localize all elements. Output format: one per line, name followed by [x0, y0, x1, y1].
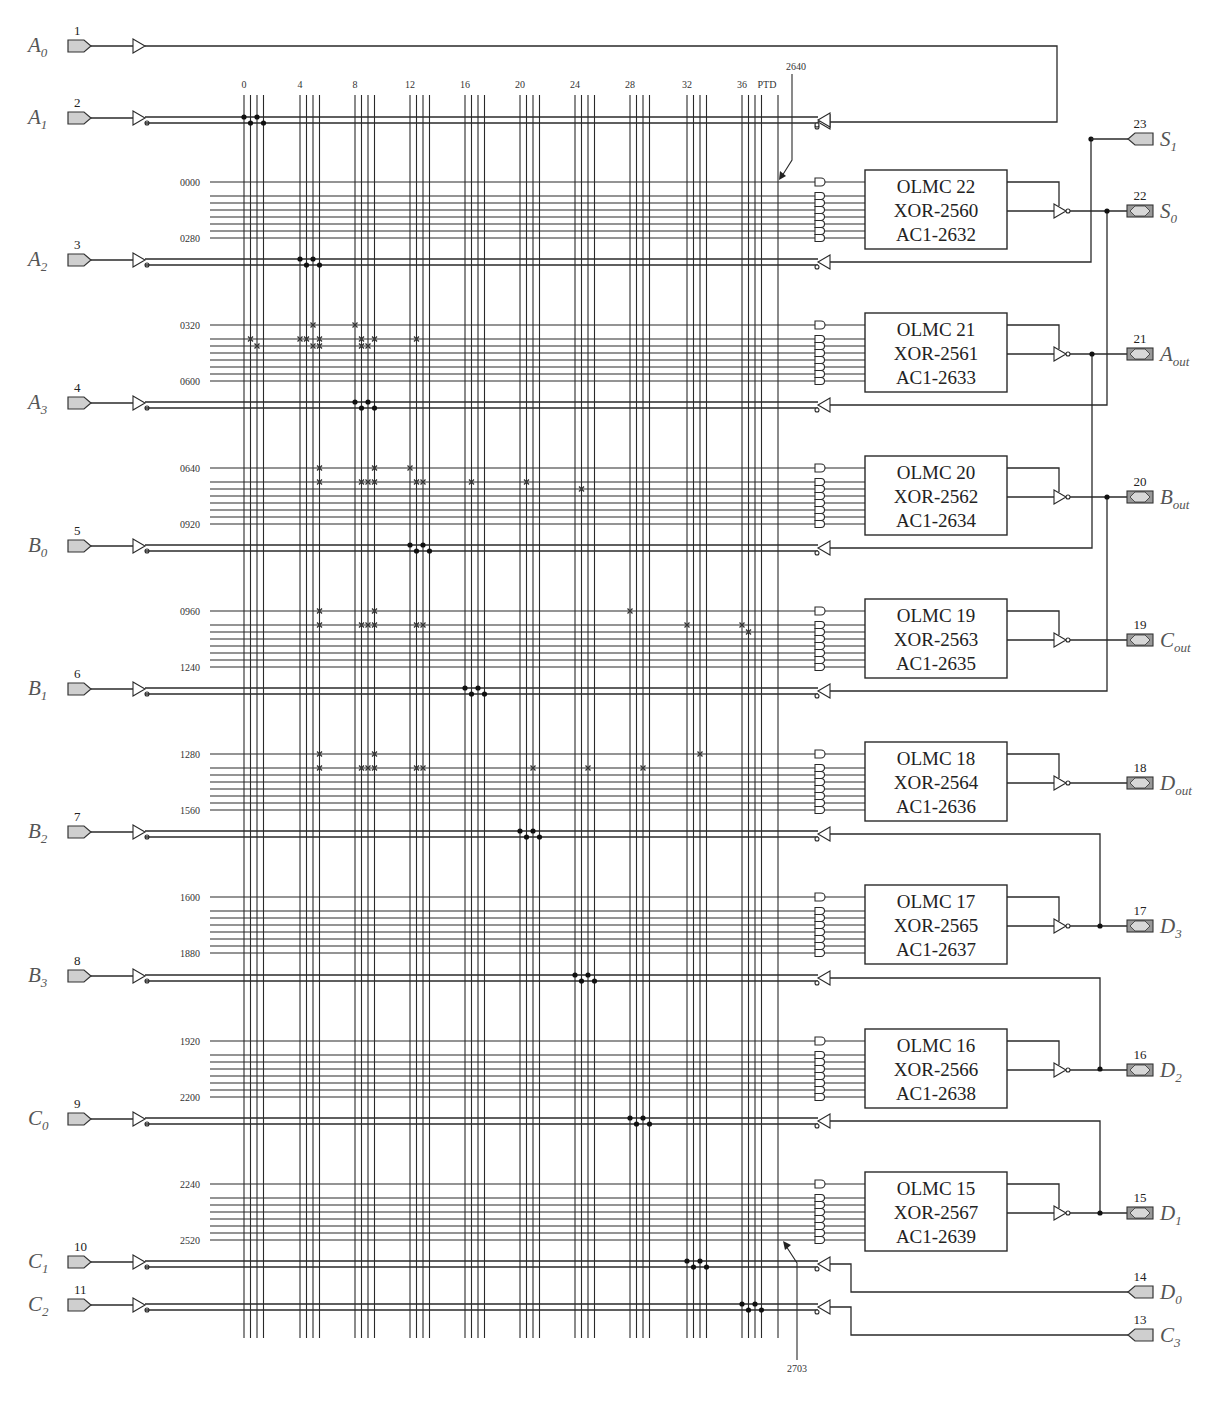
ac1-label: AC1-2638 — [896, 1083, 976, 1104]
row-last-label: 2200 — [180, 1092, 200, 1103]
output-pin-Aout[interactable]: 21Aout — [1127, 331, 1190, 369]
output-pin-D1[interactable]: 15D1 — [1127, 1190, 1182, 1228]
connection-dot — [746, 1307, 751, 1312]
input-pin-icon[interactable] — [68, 397, 91, 409]
and-gate-icon — [815, 908, 825, 915]
input-pin-icon[interactable] — [1128, 133, 1153, 145]
feedback-buffer-icon — [818, 1300, 830, 1314]
pin-name: D2 — [1159, 1058, 1182, 1085]
and-gate-icon — [815, 650, 825, 657]
output-pin-Dout[interactable]: 18Dout — [1127, 760, 1192, 798]
output-pin-Bout[interactable]: 20Bout — [1127, 474, 1190, 512]
and-gate-icon — [815, 221, 824, 228]
and-gate-icon — [815, 765, 825, 772]
arrow-2703 — [786, 1246, 797, 1360]
connection-dot — [739, 1301, 744, 1306]
connection-dot — [304, 262, 309, 267]
and-gate-icon — [815, 786, 825, 793]
input-pin-icon[interactable] — [68, 112, 91, 124]
row-first-label: 2240 — [180, 1179, 200, 1190]
output-buffer-icon — [1054, 776, 1066, 790]
column-group-label: 20 — [515, 79, 525, 90]
input-pin-icon[interactable] — [68, 683, 91, 695]
input-pin-A1[interactable]: A12 — [26, 95, 830, 132]
connection-dot — [647, 1121, 652, 1126]
and-gate-icon — [815, 1037, 825, 1045]
pin-name: C1 — [28, 1249, 49, 1276]
output-buffer-icon — [1054, 204, 1066, 218]
column-group-label: 0 — [242, 79, 247, 90]
and-gate-icon — [815, 657, 825, 664]
input-pin-icon[interactable] — [1128, 1286, 1153, 1298]
input-pin-icon[interactable] — [68, 826, 91, 838]
input-pin-icon[interactable] — [68, 254, 91, 266]
connection-dot — [414, 548, 419, 553]
ac1-label: AC1-2632 — [896, 224, 976, 245]
input-pin-S1[interactable]: 23S1 — [1091, 116, 1177, 154]
input-pin-icon[interactable] — [68, 40, 91, 52]
input-pin-icon[interactable] — [68, 540, 91, 552]
connection-dot — [297, 256, 302, 261]
input-pin-D0[interactable]: 14D0 — [830, 1264, 1182, 1307]
and-gate-icon — [815, 607, 825, 615]
and-gate-icon — [815, 636, 825, 643]
connection-dot — [627, 1115, 632, 1120]
input-pin-C3[interactable]: 13C3 — [830, 1307, 1181, 1350]
column-group-label: 24 — [570, 79, 580, 90]
connection-dot — [524, 834, 529, 839]
and-gate-icon — [815, 807, 825, 814]
output-pin-D3[interactable]: 17D3 — [1127, 903, 1182, 941]
buffer-icon — [133, 39, 145, 53]
feedback-buffer-icon — [818, 1257, 830, 1271]
ac1-label: AC1-2633 — [896, 367, 976, 388]
output-buffer-icon — [1054, 1206, 1066, 1220]
and-gate-icon — [815, 1094, 825, 1101]
input-pin-icon[interactable] — [68, 970, 91, 982]
and-gate-icon — [815, 950, 825, 957]
column-group-label: 8 — [353, 79, 358, 90]
input-pin-icon[interactable] — [68, 1256, 91, 1268]
connection-dot — [752, 1301, 757, 1306]
row-last-label: 0600 — [180, 376, 200, 387]
pin-name: A2 — [26, 247, 48, 274]
column-group-label: 4 — [298, 79, 303, 90]
connection-dot — [537, 834, 542, 839]
input-pin-A3[interactable]: A34 — [26, 380, 830, 417]
and-gate-icon — [815, 357, 825, 364]
olmc-block-15: 22402520OLMC 15XOR-2567AC1-263915D1 — [180, 1172, 1182, 1251]
connection-dot — [640, 1115, 645, 1120]
input-pin-A0[interactable]: A01 — [26, 23, 1057, 129]
and-gate-icon — [815, 479, 825, 486]
ptd-label: PTD — [758, 79, 777, 90]
and-gate-icon — [815, 1059, 825, 1066]
and-gate-icon — [815, 1209, 825, 1216]
and-gate-icon — [815, 235, 825, 242]
and-gate-icon — [815, 664, 825, 671]
output-pin-Cout[interactable]: 19Cout — [1127, 617, 1191, 655]
input-pin-icon[interactable] — [68, 1299, 91, 1311]
connection-dot — [462, 685, 467, 690]
feedback-buffer-icon — [818, 541, 830, 555]
and-gate-icon — [815, 929, 825, 936]
pin-number: 13 — [1134, 1312, 1147, 1327]
arrow-head-icon — [779, 171, 786, 180]
and-gate-icon — [815, 1216, 825, 1223]
pin-number: 15 — [1134, 1190, 1147, 1205]
row-first-label: 0000 — [180, 177, 200, 188]
olmc-block-17: 16001880OLMC 17XOR-2565AC1-263717D3 — [180, 885, 1182, 964]
ac1-label: AC1-2635 — [896, 653, 976, 674]
output-pin-D2[interactable]: 16D2 — [1127, 1047, 1182, 1085]
input-pin-icon[interactable] — [68, 1113, 91, 1125]
output-buffer-icon — [1054, 919, 1066, 933]
connection-dot — [407, 542, 412, 547]
output-pin-S0[interactable]: 22S0 — [1127, 188, 1178, 226]
pin-name: D3 — [1159, 914, 1182, 941]
input-pin-icon[interactable] — [1128, 1329, 1153, 1341]
column-group-label: 16 — [460, 79, 470, 90]
and-gate-icon — [815, 350, 825, 357]
and-gate-icon — [815, 629, 825, 636]
xor-label: XOR-2563 — [894, 629, 978, 650]
pin-number: 2 — [74, 95, 81, 110]
input-column-lines — [244, 95, 778, 1338]
input-pin-A2[interactable]: A23 — [26, 237, 830, 274]
